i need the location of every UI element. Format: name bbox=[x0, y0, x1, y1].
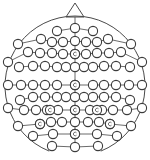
electrode-o-1 bbox=[48, 129, 57, 138]
electrode-f-9 bbox=[116, 47, 125, 56]
electrode-cp-5 bbox=[70, 92, 79, 101]
electrode-fc-9 bbox=[111, 61, 120, 70]
electrode-cp-2 bbox=[40, 92, 49, 101]
nose-icon bbox=[66, 3, 84, 17]
electrode-marker-p3: P3 bbox=[45, 105, 54, 114]
electrode-af-3 bbox=[58, 37, 67, 46]
electrode-f-4 bbox=[58, 49, 67, 58]
electrode-c-1 bbox=[16, 80, 25, 89]
electrode-po-0 bbox=[13, 121, 22, 130]
electrode-po-8 bbox=[126, 121, 135, 130]
electrode-fc-3 bbox=[52, 62, 61, 71]
nose-triangle-icon bbox=[66, 3, 84, 17]
electrode-af-7 bbox=[103, 34, 112, 43]
electrode-p-10 bbox=[137, 103, 146, 112]
electrode-marker-oz: Oz bbox=[70, 129, 79, 138]
electrode-fc-6 bbox=[79, 62, 88, 71]
electrode-fc-4 bbox=[61, 62, 70, 71]
electrode-c-7 bbox=[99, 80, 108, 89]
electrode-po-6 bbox=[94, 117, 103, 126]
electrode-p-9 bbox=[122, 105, 131, 114]
electrode-marker-po7: PO7 bbox=[35, 119, 44, 128]
electrode-fc-2 bbox=[40, 61, 49, 70]
electrode-c-8 bbox=[111, 80, 120, 89]
electrode-p-1 bbox=[19, 105, 28, 114]
electrode-fp-1 bbox=[70, 23, 79, 32]
electrode-cp-0 bbox=[15, 95, 24, 104]
electrode-c-2 bbox=[28, 80, 37, 89]
electrode-po-5 bbox=[83, 117, 92, 126]
electrode-po-2 bbox=[46, 117, 55, 126]
electrode-f-8 bbox=[104, 48, 113, 57]
electrode-af-4 bbox=[70, 36, 79, 45]
electrode-af-1 bbox=[36, 34, 45, 43]
electrode-i-1 bbox=[70, 142, 79, 151]
electrode-fc-10 bbox=[125, 62, 134, 71]
electrode-cp-3 bbox=[52, 92, 61, 101]
electrode-o-3 bbox=[92, 129, 101, 138]
electrode-p-8 bbox=[108, 105, 117, 114]
electrode-cp-6 bbox=[79, 92, 88, 101]
electrode-marker-cz: Cz bbox=[70, 80, 79, 89]
electrode-cp-7 bbox=[88, 92, 97, 101]
electrode-c-6 bbox=[88, 80, 97, 89]
electrode-po-4 bbox=[70, 117, 79, 126]
electrode-i-2 bbox=[93, 141, 102, 150]
electrode-p-2 bbox=[31, 105, 40, 114]
electrode-c-0 bbox=[3, 80, 12, 89]
electrode-cp-9 bbox=[111, 92, 120, 101]
electrode-fc-5 bbox=[70, 62, 79, 71]
electrode-c-4 bbox=[52, 80, 61, 89]
electrode-p-0 bbox=[3, 103, 12, 112]
electrode-o-4 bbox=[112, 131, 121, 140]
electrode-cp-1 bbox=[28, 92, 37, 101]
electrode-f-0 bbox=[3, 57, 12, 66]
head-electrode-map: FzCzP3PzP4PO7PO8Oz bbox=[0, 0, 150, 160]
electrode-fp-0 bbox=[52, 26, 61, 35]
electrode-cp-4 bbox=[61, 92, 70, 101]
electrode-fc-8 bbox=[99, 61, 108, 70]
electrode-f-2 bbox=[35, 48, 44, 57]
eeg-montage-diagram: FzCzP3PzP4PO7PO8Oz EEG electrode montage… bbox=[0, 0, 150, 160]
electrode-f-6 bbox=[81, 49, 90, 58]
electrode-c-9 bbox=[124, 80, 133, 89]
electrode-c-3 bbox=[40, 80, 49, 89]
electrode-fc-0 bbox=[14, 62, 23, 71]
electrode-af-2 bbox=[47, 37, 56, 46]
electrode-fc-1 bbox=[28, 61, 37, 70]
electrode-marker-fz: Fz bbox=[70, 49, 79, 58]
electrode-cp-10 bbox=[125, 95, 134, 104]
electrode-af-5 bbox=[81, 37, 90, 46]
electrode-o-0 bbox=[28, 131, 37, 140]
electrode-marker-pz: Pz bbox=[70, 105, 79, 114]
electrode-f-10 bbox=[137, 57, 146, 66]
electrode-f-1 bbox=[23, 47, 32, 56]
electrode-af-6 bbox=[92, 37, 101, 46]
electrode-marker-p4: P4 bbox=[92, 105, 101, 114]
electrode-f-3 bbox=[47, 48, 56, 57]
electrode-c-10 bbox=[137, 80, 146, 89]
electrode-af-8 bbox=[126, 39, 135, 48]
electrode-i-0 bbox=[47, 141, 56, 150]
electrode-f-7 bbox=[92, 48, 101, 57]
electrode-cp-8 bbox=[99, 92, 108, 101]
electrode-af-0 bbox=[13, 39, 22, 48]
electrode-fp-2 bbox=[88, 26, 97, 35]
electrode-fc-7 bbox=[88, 62, 97, 71]
electrode-po-3 bbox=[57, 117, 66, 126]
electrode-marker-po8: PO8 bbox=[105, 119, 114, 128]
